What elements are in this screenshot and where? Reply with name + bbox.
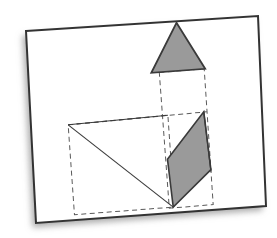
paper-card [26,16,266,223]
geometry-figure [0,0,277,238]
paper-card-group [26,16,266,223]
figure-canvas [0,0,277,238]
